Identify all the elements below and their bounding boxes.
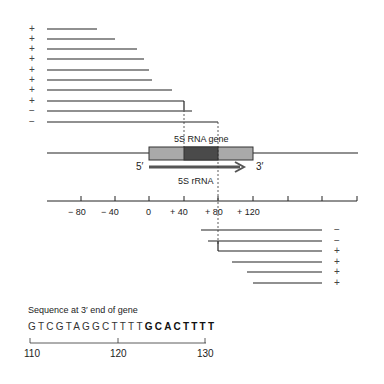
deletions-5prime (47, 29, 218, 122)
sequence-text: GTCGTAGGCTTTTGCACTTTT (28, 321, 216, 332)
sign-3p-5: + (332, 267, 342, 277)
tick-label-plus80: + 80 (205, 207, 223, 217)
sign-5p-10: − (27, 117, 37, 127)
sign-3p-3: + (332, 246, 342, 256)
sequence-bold: GCACTTTT (145, 321, 216, 332)
tick-label-plus120: + 120 (237, 207, 260, 217)
sequence-scale (30, 338, 206, 343)
tick-label-plus40: + 40 (170, 207, 188, 217)
sign-3p-1: − (332, 225, 342, 235)
gene-internal-region (184, 147, 218, 160)
position-axis (47, 196, 357, 201)
sign-5p-7: + (27, 85, 37, 95)
sign-5p-9: − (27, 106, 37, 116)
seq-scale-130: 130 (197, 348, 214, 359)
deletions-3prime (201, 230, 322, 283)
tick-label-minus80: − 80 (68, 207, 86, 217)
gene-label: 5S RNA gene (174, 134, 229, 144)
five-prime-label: 5′ (136, 161, 143, 172)
seq-scale-120: 120 (110, 348, 127, 359)
sequence-title: Sequence at 3′ end of gene (28, 305, 138, 315)
sign-5p-4: + (27, 54, 37, 64)
three-prime-label: 3′ (256, 161, 263, 172)
sequence-plain: GTCGTAGGCTTTT (28, 321, 145, 332)
tick-label-minus40: − 40 (101, 207, 119, 217)
sign-3p-6: + (332, 278, 342, 288)
seq-scale-110: 110 (24, 348, 40, 359)
rrna-label: 5S rRNA (178, 176, 214, 186)
tick-label-0: 0 (146, 207, 151, 217)
